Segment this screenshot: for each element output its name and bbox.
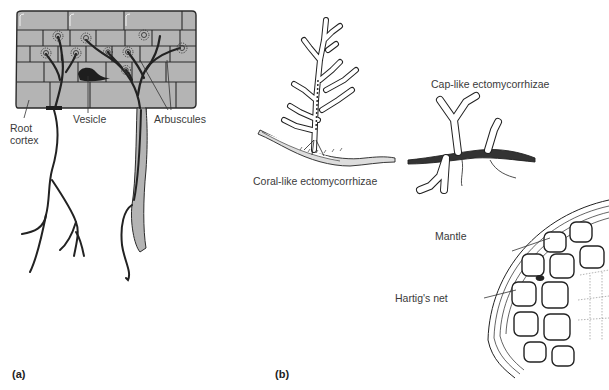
- label-cap-like-ectomycorrhizae: Cap-like ectomycorrhizae: [431, 78, 549, 90]
- label-hartigs-net: Hartig's net: [395, 292, 448, 304]
- panel-a-arbuscular-mycorrhiza: Root cortex Vesicle Arbuscules (a): [0, 0, 240, 390]
- label-mantle: Mantle: [435, 230, 467, 242]
- coral-like-drawing: [258, 20, 395, 166]
- label-vesicle: Vesicle: [73, 113, 106, 125]
- panel-letter-a: (a): [12, 368, 25, 380]
- label-root-cortex-line1: Root: [10, 122, 39, 134]
- panel-letter-b: (b): [275, 368, 289, 380]
- label-root-cortex-line2: cortex: [10, 134, 39, 146]
- panel-b-ectomycorrhizae: Coral-like ectomycorrhizae Cap-like ecto…: [240, 0, 609, 390]
- label-arbuscules: Arbuscules: [154, 113, 206, 125]
- root-cortex-illustration: [0, 0, 240, 390]
- cap-like-drawing: [408, 96, 535, 190]
- label-coral-like-ectomycorrhizae: Coral-like ectomycorrhizae: [253, 175, 377, 187]
- ectomycorrhizae-illustration: [240, 0, 609, 390]
- root-cross-section-drawing: [488, 200, 609, 378]
- label-root-cortex: Root cortex: [10, 122, 39, 146]
